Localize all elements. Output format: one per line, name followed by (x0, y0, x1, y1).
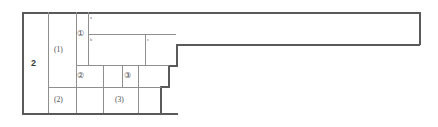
divider-circled3-left (122, 65, 123, 87)
label-level-2: 2 (31, 59, 36, 68)
row-divider-group2 (48, 87, 161, 88)
label-sub-c: c (147, 38, 149, 43)
step-edge-mid (168, 65, 170, 87)
divider-circled2-right (103, 65, 104, 87)
outer-left-edge (22, 12, 24, 115)
label-group-1: (1) (54, 46, 63, 54)
label-circled-2: ② (77, 72, 84, 80)
step-edge-lower (160, 86, 162, 114)
diagram-canvas: 2 (1) (2) (3) ① ② ③ a b c (0, 0, 438, 127)
divider-circled3-right (138, 65, 139, 87)
label-circled-1: ① (77, 30, 84, 38)
label-sub-b: b (90, 38, 92, 43)
label-group-2: (2) (54, 96, 63, 104)
divider-group3-right (138, 87, 139, 113)
label-circled-3: ③ (124, 72, 131, 80)
divider-group2-right (76, 87, 77, 113)
divider-sub-c (145, 34, 146, 65)
arm-top-edge (176, 12, 421, 14)
label-group-3: (3) (115, 96, 124, 104)
step-edge-upper (176, 44, 178, 66)
outer-bottom-edge (22, 113, 178, 115)
divider-after-level-2 (48, 12, 49, 113)
arm-bottom-edge (178, 44, 420, 46)
outer-top-edge (22, 12, 178, 14)
arm-right-edge (419, 12, 421, 45)
divider-bottom-mid (103, 87, 104, 113)
label-sub-a: a (90, 16, 92, 21)
divider-ab-horizontal (88, 34, 176, 35)
divider-sub-a (88, 12, 89, 65)
